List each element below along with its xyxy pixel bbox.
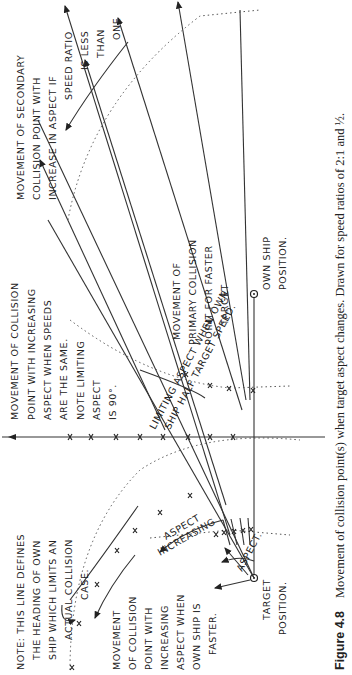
- svg-text:MOVEMENT: MOVEMENT: [111, 610, 122, 670]
- svg-text:Movement of collision point(s): Movement of collision point(s) when targ…: [333, 113, 347, 598]
- svg-text:MOVEMENT OF: MOVEMENT OF: [171, 262, 182, 340]
- svg-text:CASE.: CASE.: [79, 569, 90, 600]
- collision-point-diagram: MOVEMENT OF SECONDARY COLLISION POINT WI…: [0, 0, 352, 675]
- svg-text:MOVEMENT OF SECONDARY: MOVEMENT OF SECONDARY: [15, 55, 26, 200]
- svg-text:OWN SHIP: OWN SHIP: [261, 236, 272, 290]
- svg-text:SHIP WHICH LIMITS AN: SHIP WHICH LIMITS AN: [47, 540, 58, 660]
- svg-text:OWN SHIP IS: OWN SHIP IS: [191, 603, 202, 670]
- svg-text:ASPECT: ASPECT: [91, 380, 102, 420]
- svg-text:POINT WITH INCREASING: POINT WITH INCREASING: [26, 288, 37, 420]
- svg-text:COLLISION POINT WITH: COLLISION POINT WITH: [31, 77, 42, 200]
- svg-text:ACTUAL COLLISION: ACTUAL COLLISION: [63, 539, 74, 640]
- label-own-ship: OWN SHIP POSITION.: [261, 236, 288, 290]
- svg-text:POINT FOR FASTER: POINT FOR FASTER: [203, 245, 214, 345]
- svg-text:ASPECT WHEN SPEEDS: ASPECT WHEN SPEEDS: [42, 300, 53, 420]
- figure-caption: Figure 4.8 Movement of collision point(s…: [333, 113, 347, 670]
- label-note-line: NOTE: THIS LINE DEFINES THE HEADING OF O…: [15, 534, 90, 670]
- svg-text:OF COLLISION: OF COLLISION: [127, 596, 138, 670]
- svg-text:ONE: ONE: [111, 18, 122, 40]
- svg-text:ARE THE SAME.: ARE THE SAME.: [58, 338, 69, 420]
- svg-text:IS LESS: IS LESS: [79, 31, 90, 70]
- label-target: TARGET POSITION.: [261, 579, 288, 635]
- svg-text:MOVEMENT OF COLLISION: MOVEMENT OF COLLISION: [9, 282, 20, 420]
- svg-text:THE HEADING OF OWN: THE HEADING OF OWN: [31, 540, 42, 661]
- svg-text:NOTE LIMITING: NOTE LIMITING: [75, 341, 86, 420]
- svg-text:IS 90°.: IS 90°.: [107, 384, 118, 420]
- label-same-speed: MOVEMENT OF COLLISION POINT WITH INCREAS…: [9, 282, 118, 420]
- svg-text:POINT WITH: POINT WITH: [143, 607, 154, 670]
- svg-text:ASPECT WHEN: ASPECT WHEN: [175, 594, 186, 670]
- svg-text:POSITION.: POSITION.: [277, 581, 288, 635]
- svg-text:TARGET: TARGET: [219, 284, 230, 326]
- svg-text:POSITION.: POSITION.: [277, 236, 288, 290]
- svg-text:SPEED RATIO: SPEED RATIO: [63, 31, 74, 100]
- svg-text:PRIMARY COLLISION: PRIMARY COLLISION: [187, 239, 198, 345]
- svg-text:INCREASE IN ASPECT IF: INCREASE IN ASPECT IF: [47, 76, 58, 200]
- svg-text:Figure 4.8: Figure 4.8: [333, 611, 347, 670]
- label-faster: MOVEMENT OF COLLISION POINT WITH INCREAS…: [111, 594, 218, 670]
- svg-text:FASTER.: FASTER.: [207, 613, 218, 655]
- svg-text:NOTE: THIS LINE DEFINES: NOTE: THIS LINE DEFINES: [15, 534, 26, 670]
- svg-text:THAN: THAN: [95, 29, 106, 59]
- arrow-head-icon: [8, 434, 16, 440]
- svg-text:TARGET: TARGET: [261, 579, 272, 621]
- label-secondary: MOVEMENT OF SECONDARY COLLISION POINT WI…: [15, 18, 122, 200]
- svg-text:INCREASING: INCREASING: [159, 605, 170, 670]
